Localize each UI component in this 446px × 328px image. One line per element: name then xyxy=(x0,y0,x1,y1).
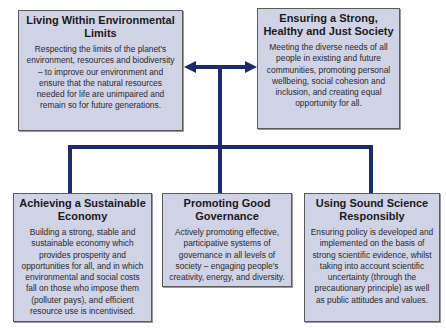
box-living-within-environmental-limits: Living Within Environmental Limits Respe… xyxy=(18,10,183,131)
box-body: Actively promoting effective, participat… xyxy=(168,227,286,283)
box-sound-science: Using Sound Science Responsibly Ensuring… xyxy=(304,193,440,322)
box-body: Meeting the diverse needs of all people … xyxy=(263,42,394,110)
box-body: Building a strong, stable and sustainabl… xyxy=(19,227,146,317)
box-title: Promoting Good Governance xyxy=(168,197,286,223)
box-body: Respecting the limits of the planet's en… xyxy=(24,44,177,112)
box-title: Achieving a Sustainable Economy xyxy=(19,197,146,223)
box-good-governance: Promoting Good Governance Actively promo… xyxy=(162,193,292,287)
box-title: Ensuring a Strong, Healthy and Just Soci… xyxy=(263,12,394,38)
box-title: Living Within Environmental Limits xyxy=(24,14,177,40)
box-title: Using Sound Science Responsibly xyxy=(310,197,434,223)
box-body: Ensuring policy is developed and impleme… xyxy=(310,227,434,306)
box-strong-healthy-just-society: Ensuring a Strong, Healthy and Just Soci… xyxy=(257,8,400,129)
arrowhead-left-icon xyxy=(184,61,196,73)
box-sustainable-economy: Achieving a Sustainable Economy Building… xyxy=(13,193,152,322)
arrowhead-right-icon xyxy=(245,61,257,73)
